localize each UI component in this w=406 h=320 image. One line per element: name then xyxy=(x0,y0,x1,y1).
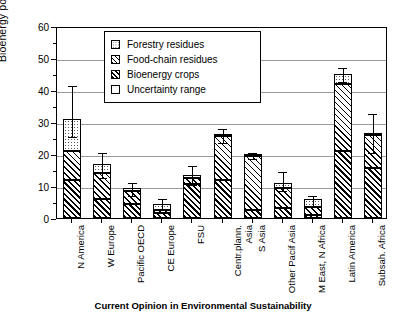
x-tick-label: S Asia xyxy=(256,225,267,311)
uncertainty-cap-upper xyxy=(128,183,137,184)
uncertainty-range-line xyxy=(132,183,133,196)
uncertainty-cap-upper xyxy=(218,129,227,130)
bar-segment-food xyxy=(304,207,322,215)
x-tick-mark xyxy=(161,219,162,223)
uncertainty-range-line xyxy=(72,86,73,137)
x-tick-label: FSU xyxy=(195,225,206,311)
legend-label: Food-chain residues xyxy=(127,54,218,65)
x-tick-label: CE Europe xyxy=(165,225,176,311)
uncertainty-cap-lower xyxy=(128,196,137,197)
x-tick-mark xyxy=(372,219,373,223)
x-tick-mark xyxy=(71,219,72,223)
legend-item-bioenergy-crops: Bioenergy crops xyxy=(111,67,254,82)
bar-stack xyxy=(334,26,352,218)
legend-item-forestry-residues: Forestry residues xyxy=(111,37,254,52)
bioenergy-crops-swatch-icon xyxy=(111,70,120,79)
bar-segment-food xyxy=(244,156,262,210)
bar-segment-crops xyxy=(244,210,262,218)
bioenergy-potential-chart: Bioenergy potential [EJ/yr] 010203040506… xyxy=(0,0,406,320)
uncertainty-cap-upper xyxy=(368,114,377,115)
x-tick-label: Subsah. Africa xyxy=(376,225,387,311)
x-tick-mark xyxy=(101,219,102,223)
legend-item-uncertainty-range: Uncertainty range xyxy=(111,82,254,97)
bar-segment-crops xyxy=(153,213,171,218)
uncertainty-cap-lower xyxy=(368,153,377,154)
bar-segment-crops xyxy=(214,180,232,218)
legend-label: Forestry residues xyxy=(127,39,204,50)
uncertainty-cap-lower xyxy=(248,159,257,160)
x-tick-label: W Europe xyxy=(105,225,116,311)
bar-segment-crops xyxy=(364,168,382,218)
y-tick-label: 50 xyxy=(27,54,49,65)
uncertainty-cap-lower xyxy=(278,191,287,192)
legend-label: Bioenergy crops xyxy=(127,69,199,80)
bar-segment-crops xyxy=(93,199,111,218)
x-tick-label: Pacific OECD xyxy=(135,225,146,311)
y-tick-mark xyxy=(51,219,56,220)
y-tick-label: 60 xyxy=(27,22,49,33)
uncertainty-cap-lower xyxy=(338,82,347,83)
uncertainty-cap-upper xyxy=(158,199,167,200)
bar-segment-food xyxy=(334,84,352,151)
x-tick-mark xyxy=(252,219,253,223)
x-tick-mark xyxy=(131,219,132,223)
x-tick-label: Centr.plann.Asia xyxy=(232,225,254,311)
uncertainty-cap-lower xyxy=(188,185,197,186)
y-axis-title: Bioenergy potential [EJ/yr] xyxy=(0,0,8,62)
figure-caption: Current Opinion in Environmental Sustain… xyxy=(0,300,406,311)
uncertainty-cap-lower xyxy=(308,206,317,207)
x-tick-mark xyxy=(282,219,283,223)
uncertainty-cap-lower xyxy=(98,178,107,179)
legend-item-food-chain-residues: Food-chain residues xyxy=(111,52,254,67)
x-tick-label: Other Pacif Asia xyxy=(286,225,297,311)
x-tick-mark xyxy=(342,219,343,223)
uncertainty-range-line xyxy=(102,153,103,179)
y-tick-label: 10 xyxy=(27,182,49,193)
uncertainty-range-swatch-icon xyxy=(111,85,120,94)
uncertainty-cap-upper xyxy=(308,196,317,197)
bar-segment-crops xyxy=(183,184,201,218)
x-tick-label: N America xyxy=(75,225,86,311)
uncertainty-cap-upper xyxy=(338,68,347,69)
uncertainty-range-line xyxy=(283,172,284,191)
y-tick-label: 30 xyxy=(27,118,49,129)
y-tick-label: 40 xyxy=(27,86,49,97)
bar-segment-crops xyxy=(334,151,352,218)
y-tick-label: 20 xyxy=(27,150,49,161)
uncertainty-cap-lower xyxy=(68,137,77,138)
uncertainty-cap-upper xyxy=(248,153,257,154)
uncertainty-range-line xyxy=(223,129,224,143)
uncertainty-range-line xyxy=(313,196,314,206)
x-tick-mark xyxy=(222,219,223,223)
food-chain-residues-swatch-icon xyxy=(111,55,120,64)
bar-stack xyxy=(304,26,322,218)
chart-legend: Forestry residues Food-chain residues Bi… xyxy=(104,31,261,103)
y-tick-label: 0 xyxy=(27,214,49,225)
uncertainty-cap-upper xyxy=(278,172,287,173)
uncertainty-cap-lower xyxy=(218,143,227,144)
bar-segment-crops xyxy=(123,204,141,218)
bar-segment-crops xyxy=(304,215,322,218)
uncertainty-range-line xyxy=(162,199,163,210)
uncertainty-cap-upper xyxy=(98,153,107,154)
x-tick-label: Latin America xyxy=(346,225,357,311)
uncertainty-cap-upper xyxy=(68,86,77,87)
x-tick-mark xyxy=(312,219,313,223)
x-tick-mark xyxy=(191,219,192,223)
bar-segment-crops xyxy=(274,208,292,218)
uncertainty-cap-upper xyxy=(188,166,197,167)
uncertainty-range-line xyxy=(192,166,193,185)
bar-segment-food xyxy=(63,151,81,180)
uncertainty-range-line xyxy=(373,114,374,152)
bar-segment-crops xyxy=(63,180,81,218)
uncertainty-range-line xyxy=(343,68,344,82)
forestry-residues-swatch-icon xyxy=(111,40,120,49)
x-tick-label: M East, N Africa xyxy=(316,225,327,311)
uncertainty-cap-lower xyxy=(158,210,167,211)
legend-label: Uncertainty range xyxy=(127,84,206,95)
